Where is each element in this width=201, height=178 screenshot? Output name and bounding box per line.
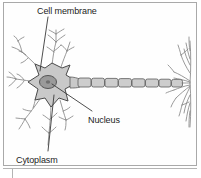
neuron-diagram-svg	[4, 3, 196, 165]
myelin-segment	[78, 78, 91, 87]
dendrite-upper	[52, 42, 56, 65]
figure-container: Cell membrane Nucleus Cytoplasm	[0, 0, 201, 178]
axon-myelin-sheath	[78, 78, 183, 87]
nucleolus-shape	[46, 80, 50, 84]
caption-divider	[12, 169, 13, 178]
dendrite-lower-left	[25, 99, 40, 119]
illustration-panel: Cell membrane Nucleus Cytoplasm	[3, 2, 197, 166]
myelin-segment	[92, 78, 105, 87]
figure-caption-inner	[3, 169, 197, 178]
myelin-segment	[146, 79, 159, 87]
myelin-segment	[119, 79, 132, 87]
label-cell-membrane: Cell membrane	[37, 6, 97, 16]
myelin-segment	[132, 79, 145, 87]
myelin-segment	[105, 78, 118, 87]
label-nucleus: Nucleus	[88, 115, 120, 125]
myelin-segment	[159, 79, 171, 87]
label-cytoplasm: Cytoplasm	[16, 155, 58, 165]
myelin-segment	[172, 79, 183, 87]
figure-caption-bar	[3, 168, 197, 178]
dendrite-upper-right	[61, 51, 67, 67]
leader-cell-membrane	[40, 17, 48, 71]
